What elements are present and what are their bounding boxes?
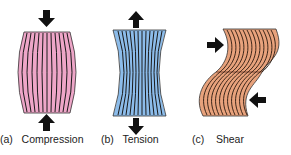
shear-figure (199, 29, 279, 116)
stress-diagram (0, 0, 291, 155)
caption-name: Tension (122, 133, 158, 145)
caption-letter: (c) (192, 133, 204, 145)
compression-arrow-bottom-icon (38, 114, 55, 131)
caption-name: Shear (216, 133, 244, 145)
caption-letter: (b) (101, 133, 114, 145)
compression-figure (18, 10, 76, 131)
tension-arrow-top-icon (128, 11, 144, 28)
caption-shear: (c) Shear (192, 133, 244, 145)
caption-compression: (a) Compression (0, 133, 83, 145)
compression-arrow-top-icon (38, 10, 55, 27)
tension-figure (113, 11, 166, 135)
shear-arrow-right-icon (249, 92, 266, 108)
shear-arrow-left-icon (207, 37, 224, 53)
caption-tension: (b) Tension (101, 133, 159, 145)
caption-name: Compression (22, 133, 84, 145)
caption-letter: (a) (0, 133, 13, 145)
